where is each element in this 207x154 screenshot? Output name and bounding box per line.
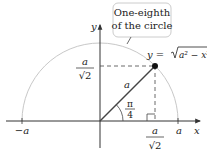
equation-radicand: a² − x² xyxy=(179,50,207,60)
y-coord-denominator: √2 xyxy=(79,70,92,81)
x-axis-label: x xyxy=(194,125,200,136)
neg-a-label: −a xyxy=(15,125,29,136)
angle-numerator: π xyxy=(127,99,133,109)
pos-a-label: a xyxy=(176,125,182,136)
radius-label: a xyxy=(124,79,130,90)
point-on-circle xyxy=(152,63,158,69)
circle-diagram: One-eighth of the circle y = a² − x² y x… xyxy=(0,0,207,154)
equation-lhs: y = xyxy=(146,49,164,60)
y-coord-numerator: a xyxy=(82,56,88,67)
callout-line1: One-eighth xyxy=(114,7,171,18)
callout-line2: of the circle xyxy=(112,20,173,31)
x-coord-denominator: √2 xyxy=(149,140,162,151)
angle-denominator: 4 xyxy=(127,110,133,120)
angle-arc xyxy=(116,105,123,121)
y-axis-label: y xyxy=(90,21,97,32)
callout-pointer xyxy=(127,37,131,44)
x-coord-numerator: a xyxy=(152,125,158,136)
right-angle-marker xyxy=(147,114,155,121)
